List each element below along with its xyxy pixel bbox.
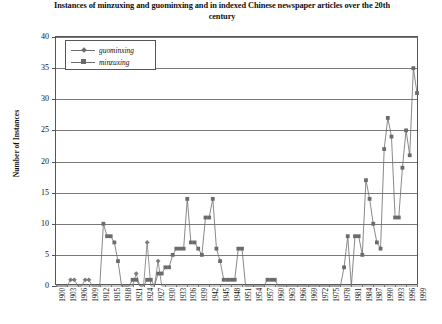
data-point-minzuxing (371, 222, 375, 226)
y-tick-label: 5 (19, 249, 49, 258)
x-tick-label: 1933 (179, 288, 188, 302)
data-point-minzuxing (207, 216, 211, 220)
data-point-minzuxing (222, 278, 226, 282)
data-point-minzuxing (211, 197, 215, 201)
data-point-minzuxing (266, 278, 270, 282)
data-point-minzuxing (353, 234, 357, 238)
x-tick-label: 1981 (354, 288, 363, 302)
x-tick-label: 1996 (408, 288, 417, 302)
x-tick-label: 1942 (211, 288, 220, 302)
x-tick-label: 1960 (277, 288, 286, 302)
legend-item-minzuxing[interactable]: minzuxing (70, 56, 151, 68)
data-point-minzuxing (408, 153, 412, 157)
x-tick-label: 1990 (386, 288, 395, 302)
x-tick-label: 1993 (397, 288, 406, 302)
data-point-guominxing (86, 277, 91, 282)
x-tick-label: 1918 (124, 288, 133, 302)
x-tick-label: 1984 (365, 288, 374, 302)
data-point-minzuxing (346, 234, 350, 238)
data-point-minzuxing (200, 253, 204, 257)
plot-area: guominxing minzuxing (55, 36, 418, 285)
legend: guominxing minzuxing (65, 40, 156, 70)
data-point-minzuxing (273, 278, 277, 282)
y-tick-label: 40 (19, 32, 49, 41)
data-point-minzuxing (233, 278, 237, 282)
data-point-minzuxing (397, 216, 401, 220)
data-point-minzuxing (196, 247, 200, 251)
data-point-guominxing (145, 240, 150, 245)
data-point-minzuxing (382, 147, 386, 151)
y-tick-label: 10 (19, 218, 49, 227)
data-point-minzuxing (229, 278, 233, 282)
legend-marker-square-icon (70, 57, 96, 67)
chart-container: Instances of minzuxing and guominxing an… (0, 0, 442, 324)
legend-label-minzuxing: minzuxing (96, 58, 129, 67)
x-tick-label: 1915 (113, 288, 122, 302)
legend-item-guominxing[interactable]: guominxing (70, 44, 151, 56)
data-point-minzuxing (204, 216, 208, 220)
data-point-minzuxing (404, 128, 408, 132)
x-tick-label: 1963 (288, 288, 297, 302)
data-point-minzuxing (109, 234, 113, 238)
x-tick-label: 1927 (157, 288, 166, 302)
x-tick-label: 1987 (375, 288, 384, 302)
x-tick-label: 1969 (310, 288, 319, 302)
legend-label-guominxing: guominxing (96, 46, 134, 55)
data-point-minzuxing (342, 265, 346, 269)
y-tick-label: 0 (19, 281, 49, 290)
y-tick-label: 35 (19, 63, 49, 72)
x-tick-label: 1966 (299, 288, 308, 302)
data-point-minzuxing (390, 135, 394, 139)
x-tick-label: 1999 (419, 288, 428, 302)
x-tick-label: 1954 (255, 288, 264, 302)
x-tick-label: 1912 (102, 288, 111, 302)
data-point-minzuxing (360, 253, 364, 257)
data-point-minzuxing (411, 66, 415, 70)
chart-title: Instances of minzuxing and guominxing an… (46, 1, 398, 22)
x-tick-label: 1972 (321, 288, 330, 302)
data-point-minzuxing (182, 247, 186, 251)
data-point-minzuxing (112, 241, 116, 245)
x-tick-label: 1909 (91, 288, 100, 302)
x-tick-label: 1975 (332, 288, 341, 302)
data-point-minzuxing (375, 241, 379, 245)
x-tick-label: 1945 (222, 288, 231, 302)
data-point-minzuxing (225, 278, 229, 282)
x-tick-label: 1921 (135, 288, 144, 302)
data-point-minzuxing (269, 278, 273, 282)
x-tick-label: 1906 (80, 288, 89, 302)
data-point-minzuxing (193, 241, 197, 245)
data-point-guominxing (134, 271, 139, 276)
y-tick-label: 30 (19, 94, 49, 103)
data-point-minzuxing (160, 272, 164, 276)
data-point-guominxing (156, 259, 161, 264)
data-point-minzuxing (401, 166, 405, 170)
data-point-minzuxing (368, 197, 372, 201)
data-point-minzuxing (163, 265, 167, 269)
x-tick-label: 1939 (200, 288, 209, 302)
data-point-minzuxing (174, 247, 178, 251)
data-point-minzuxing (218, 259, 222, 263)
x-tick-label: 1978 (343, 288, 352, 302)
data-series-layer (56, 37, 419, 286)
x-tick-label: 1930 (168, 288, 177, 302)
data-point-minzuxing (185, 197, 189, 201)
data-point-minzuxing (116, 259, 120, 263)
data-point-minzuxing (357, 234, 361, 238)
data-point-minzuxing (236, 247, 240, 251)
data-point-minzuxing (215, 247, 219, 251)
data-point-minzuxing (167, 265, 171, 269)
data-point-minzuxing (240, 247, 244, 251)
x-tick-label: 1903 (69, 288, 78, 302)
data-point-minzuxing (415, 91, 419, 95)
data-point-minzuxing (178, 247, 182, 251)
data-point-minzuxing (379, 247, 383, 251)
data-point-minzuxing (171, 253, 175, 257)
data-point-minzuxing (105, 234, 109, 238)
data-point-minzuxing (134, 278, 138, 282)
x-tick-label: 1900 (58, 288, 67, 302)
x-tick-label: 1957 (266, 288, 275, 302)
data-point-minzuxing (364, 178, 368, 182)
data-point-minzuxing (149, 278, 153, 282)
data-point-minzuxing (145, 278, 149, 282)
